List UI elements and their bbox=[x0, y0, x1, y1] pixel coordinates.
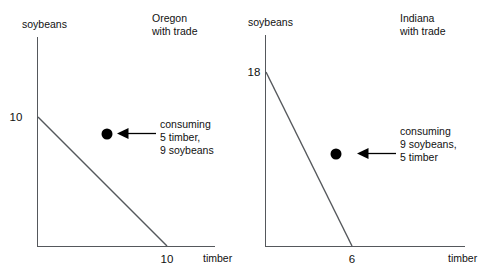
annotation-arrow-head bbox=[357, 148, 369, 159]
annotation-arrow-head bbox=[117, 128, 129, 139]
panel-title: Oregon bbox=[152, 12, 187, 24]
oregon-plot: soybeans 10 10 timber Oregon with trade … bbox=[0, 0, 245, 277]
y-axis-label: soybeans bbox=[248, 16, 293, 28]
x-axis-label: timber bbox=[448, 252, 478, 264]
chart-panel-oregon: soybeans 10 10 timber Oregon with trade … bbox=[0, 0, 245, 277]
consumption-point-marker bbox=[331, 149, 342, 160]
panel-subtitle: with trade bbox=[399, 25, 446, 37]
panel-subtitle: with trade bbox=[151, 25, 198, 37]
consumption-point-marker bbox=[102, 129, 113, 140]
y-tick-label-18: 18 bbox=[248, 66, 261, 78]
x-tick-label-6: 6 bbox=[349, 253, 355, 265]
x-axis-label: timber bbox=[203, 252, 233, 264]
chart-panel-indiana: soybeans 18 6 timber Indiana with trade … bbox=[244, 0, 489, 277]
annotation-line-3: 5 timber bbox=[400, 151, 438, 163]
annotation-line-1: consuming bbox=[160, 118, 211, 130]
ppf-figure: soybeans 10 10 timber Oregon with trade … bbox=[0, 0, 489, 277]
ppf-line bbox=[266, 72, 352, 246]
y-tick-label-10: 10 bbox=[10, 111, 23, 123]
annotation-line-3: 9 soybeans bbox=[160, 144, 214, 156]
annotation-line-2: 9 soybeans, bbox=[400, 138, 457, 150]
annotation-line-2: 5 timber, bbox=[160, 131, 200, 143]
x-tick-label-10: 10 bbox=[161, 253, 174, 265]
indiana-plot: soybeans 18 6 timber Indiana with trade … bbox=[244, 0, 489, 277]
annotation-line-1: consuming bbox=[400, 125, 451, 137]
panel-title: Indiana bbox=[400, 12, 435, 24]
y-axis-label: soybeans bbox=[22, 18, 67, 30]
